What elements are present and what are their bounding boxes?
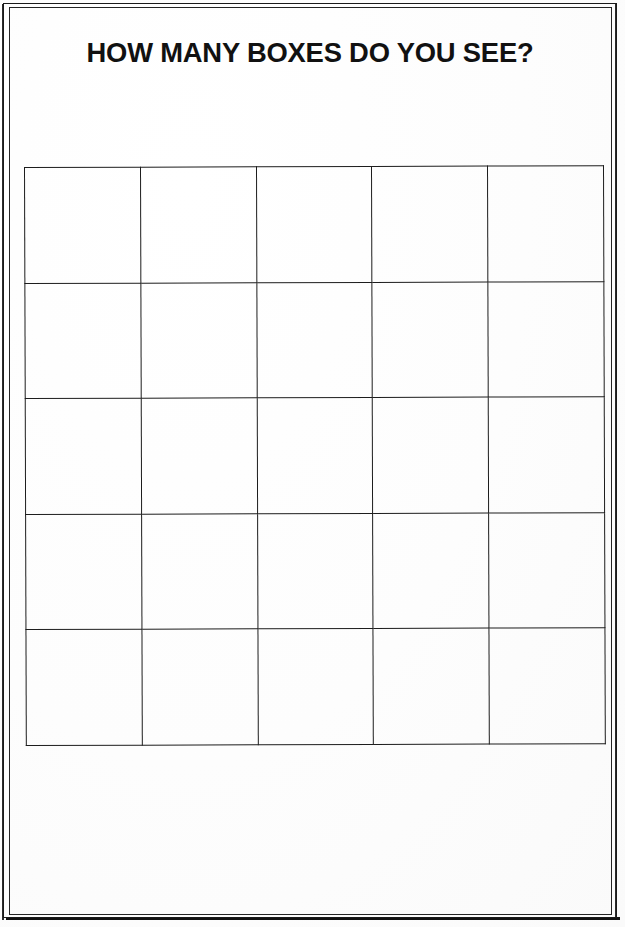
box-cell[interactable] <box>26 630 142 746</box>
box-cell[interactable] <box>141 514 257 630</box>
box-cell[interactable] <box>142 629 258 745</box>
box-cell[interactable] <box>372 166 488 282</box>
boxes-grid-body <box>25 166 606 746</box>
box-cell[interactable] <box>489 512 605 628</box>
box-cell[interactable] <box>141 398 257 514</box>
box-cell[interactable] <box>373 513 489 629</box>
box-cell[interactable] <box>257 513 373 629</box>
page-title: HOW MANY BOXES DO YOU SEE? <box>41 36 579 69</box>
box-cell[interactable] <box>372 282 488 398</box>
box-cell[interactable] <box>488 397 604 513</box>
worksheet-page: HOW MANY BOXES DO YOU SEE? <box>0 0 625 927</box>
table-row <box>26 628 605 745</box>
box-cell[interactable] <box>488 281 604 397</box>
box-cell[interactable] <box>25 167 141 283</box>
box-cell[interactable] <box>140 167 256 283</box>
table-row <box>25 397 604 514</box>
box-cell[interactable] <box>256 282 372 398</box>
box-cell[interactable] <box>25 283 141 399</box>
box-cell[interactable] <box>488 166 604 282</box>
box-cell[interactable] <box>258 629 374 745</box>
boxes-grid <box>24 165 606 746</box>
box-cell[interactable] <box>489 628 605 744</box>
box-cell[interactable] <box>25 398 141 514</box>
box-cell[interactable] <box>373 628 489 744</box>
box-cell[interactable] <box>256 166 372 282</box>
box-cell[interactable] <box>373 397 489 513</box>
box-cell[interactable] <box>141 282 257 398</box>
table-row <box>25 166 604 283</box>
boxes-grid-table <box>24 165 606 746</box>
table-row <box>26 512 605 629</box>
box-cell[interactable] <box>26 514 142 630</box>
table-row <box>25 281 604 398</box>
box-cell[interactable] <box>257 398 373 514</box>
